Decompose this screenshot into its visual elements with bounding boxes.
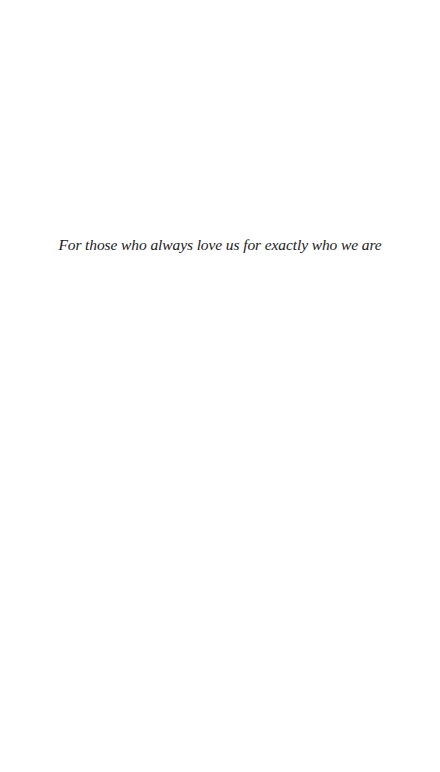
dedication-text: For those who always love us for exactly… (0, 236, 440, 254)
book-page: For those who always love us for exactly… (0, 0, 440, 772)
